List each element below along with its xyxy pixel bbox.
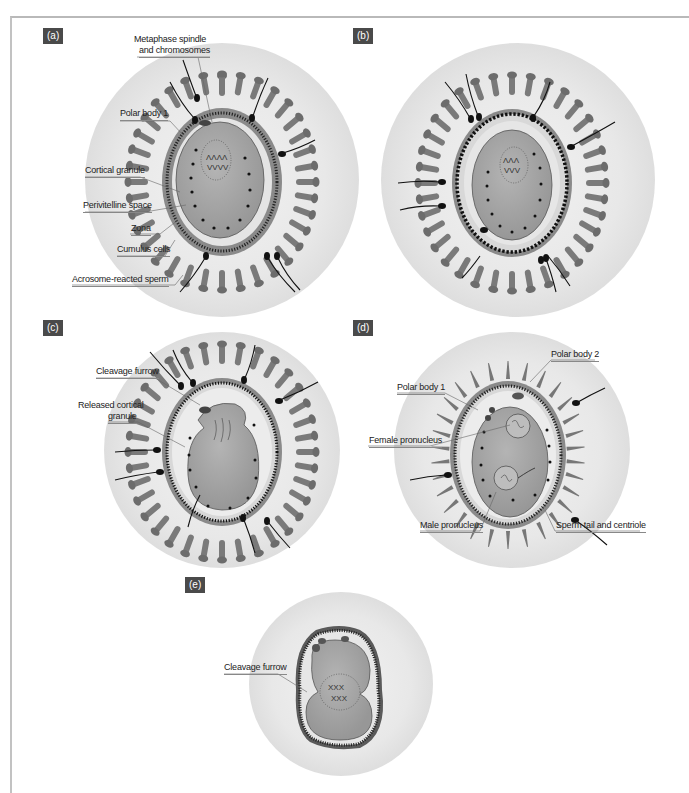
label-zona: Zona xyxy=(131,223,151,236)
label-female-pronucleus: Female pronucleus xyxy=(369,435,442,448)
svg-text:VVV: VVV xyxy=(504,166,521,175)
label-perivitelline-space: Perivitelline space xyxy=(83,200,152,213)
label-released-cortical: Released cortical xyxy=(78,400,144,411)
label-metaphase-spindle: Metaphase spindle xyxy=(134,34,206,45)
label-cleavage-furrow-c: Cleavage furrow xyxy=(96,366,159,379)
svg-text:XXX: XXX xyxy=(328,683,345,692)
label-polar-body-1: Polar body 1 xyxy=(120,108,168,121)
panel-tag-e: (e) xyxy=(185,577,205,593)
fertilization-diagram: ΛΛΛΛ VVVV xyxy=(0,0,689,793)
svg-text:ΛΛΛ: ΛΛΛ xyxy=(503,156,520,165)
label-sperm-tail-centriole: Sperm tail and centriole xyxy=(556,520,646,533)
panel-b-illustration: ΛΛΛ VVV xyxy=(381,43,655,317)
label-cortical-granule: Cortical granule xyxy=(85,165,145,178)
panel-e-illustration: XXX XXX xyxy=(224,592,433,776)
panel-tag-d: (d) xyxy=(353,320,373,336)
label-polar-body-1-d: Polar body 1 xyxy=(397,382,445,395)
panel-tag-a: (a) xyxy=(43,28,63,44)
label-male-pronucleus: Male pronucleus xyxy=(420,520,483,533)
panel-tag-c: (c) xyxy=(43,320,63,336)
label-acrosome-reacted-sperm: Acrosome-reacted sperm xyxy=(72,274,169,287)
label-and-chromosomes: and chromosomes xyxy=(139,45,210,58)
label-granule: granule xyxy=(108,411,137,424)
panel-tag-b: (b) xyxy=(353,28,373,44)
label-polar-body-2: Polar body 2 xyxy=(551,349,599,362)
label-cumulus-cells: Cumulus cells xyxy=(117,244,170,257)
svg-text:XXX: XXX xyxy=(331,694,348,703)
label-cleavage-furrow-e: Cleavage furrow xyxy=(224,662,287,675)
svg-text:ΛΛΛΛ: ΛΛΛΛ xyxy=(206,153,228,162)
svg-text:VVVV: VVVV xyxy=(207,163,229,172)
